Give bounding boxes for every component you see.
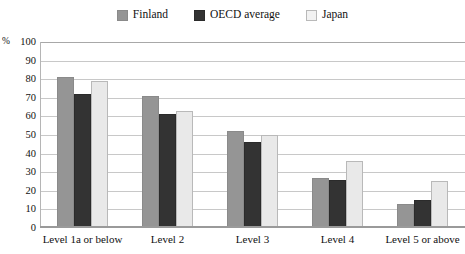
y-axis: 100%9080706050403020100	[0, 42, 40, 228]
bar-finland	[57, 77, 74, 226]
y-axis-tick-label: 40	[26, 148, 37, 159]
legend-item-japan: Japan	[306, 9, 348, 21]
legend-label-oecd-average: OECD average	[210, 9, 280, 21]
y-axis-tick-label: 60	[26, 111, 37, 122]
bar-oecd-average	[244, 142, 261, 226]
legend-swatch-oecd-average	[194, 10, 205, 21]
x-axis-category-label: Level 3	[210, 234, 295, 245]
bar-group	[210, 42, 295, 226]
bar-group	[40, 42, 125, 226]
bar-finland	[312, 178, 329, 226]
y-axis-tick-label: 0	[31, 223, 36, 234]
x-axis-category-label: Level 1a or below	[40, 234, 125, 245]
bar-oecd-average	[159, 114, 176, 226]
legend-item-oecd-average: OECD average	[194, 9, 280, 21]
chart-legend: Finland OECD average Japan	[0, 4, 465, 26]
bar-oecd-average	[414, 200, 431, 226]
legend-item-finland: Finland	[117, 9, 168, 21]
bar-group	[295, 42, 380, 226]
x-axis-line	[40, 226, 465, 228]
legend-swatch-japan	[306, 10, 317, 21]
bar-chart: Finland OECD average Japan 100%908070605…	[0, 0, 465, 254]
legend-label-japan: Japan	[322, 9, 348, 21]
bar-japan	[346, 161, 363, 226]
bar-group	[380, 42, 465, 226]
legend-swatch-finland	[117, 10, 128, 21]
bar-finland	[142, 96, 159, 226]
y-axis-tick-label: 50	[26, 130, 37, 141]
bar-japan	[91, 81, 108, 226]
bar-japan	[176, 111, 193, 226]
x-axis-category-label: Level 4	[295, 234, 380, 245]
bar-group	[125, 42, 210, 226]
legend-label-finland: Finland	[133, 9, 168, 21]
grid-area	[40, 42, 465, 228]
bar-finland	[227, 131, 244, 226]
y-axis-tick-label: 100	[20, 37, 36, 48]
bar-japan	[431, 181, 448, 226]
plot-area: 100%9080706050403020100	[0, 42, 465, 232]
y-axis-unit-label: %	[2, 37, 10, 47]
y-axis-tick-label: 70	[26, 93, 37, 104]
x-axis-category-label: Level 2	[125, 234, 210, 245]
y-axis-tick-label: 90	[26, 55, 37, 66]
y-axis-tick-label: 10	[26, 204, 37, 215]
y-axis-tick-label: 30	[26, 167, 37, 178]
bar-oecd-average	[329, 180, 346, 227]
x-axis-category-label: Level 5 or above	[380, 234, 465, 245]
y-axis-tick-label: 20	[26, 186, 37, 197]
y-axis-tick-label: 80	[26, 74, 37, 85]
bar-finland	[397, 204, 414, 226]
bar-groups	[40, 42, 465, 226]
bar-japan	[261, 135, 278, 226]
bar-oecd-average	[74, 94, 91, 226]
x-axis-labels: Level 1a or belowLevel 2Level 3Level 4Le…	[40, 234, 465, 245]
